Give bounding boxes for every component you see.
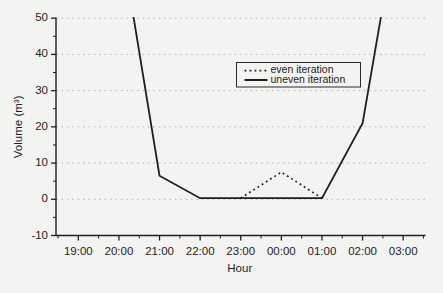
- y-tick-label: 40: [35, 47, 48, 59]
- x-tick-label: 20:00: [105, 245, 134, 257]
- x-tick-label: 21:00: [145, 245, 174, 257]
- x-tick-label: 00:00: [267, 245, 296, 257]
- x-tick-label: 22:00: [186, 245, 215, 257]
- plot-area: [119, 0, 403, 198]
- y-tick-label: 10: [35, 156, 48, 168]
- y-tick-label: 20: [35, 120, 48, 132]
- x-tick-label: 01:00: [308, 245, 337, 257]
- x-tick-label: 02:00: [348, 245, 377, 257]
- y-tick-label: 0: [42, 192, 48, 204]
- x-tick-label: 03:00: [389, 245, 418, 257]
- series-line-even-iteration: [241, 172, 322, 198]
- y-tick-label: 50: [35, 11, 48, 23]
- y-tick-label: 30: [35, 84, 48, 96]
- legend: even iterationuneven iteration: [237, 63, 361, 88]
- series-line-uneven-iteration: [119, 0, 403, 198]
- x-tick-label: 19:00: [64, 245, 93, 257]
- y-tick-label: -10: [31, 229, 48, 241]
- figure-scan-page: -100102030405019:0020:0021:0022:0023:000…: [0, 0, 443, 293]
- x-axis-title: Hour: [227, 262, 252, 274]
- chart-canvas: -100102030405019:0020:0021:0022:0023:000…: [0, 0, 443, 293]
- y-axis-title: Volume (m³): [12, 95, 24, 158]
- x-tick-label: 23:00: [226, 245, 255, 257]
- legend-label: uneven iteration: [271, 73, 346, 85]
- volume-vs-hour-chart: -100102030405019:0020:0021:0022:0023:000…: [0, 0, 443, 293]
